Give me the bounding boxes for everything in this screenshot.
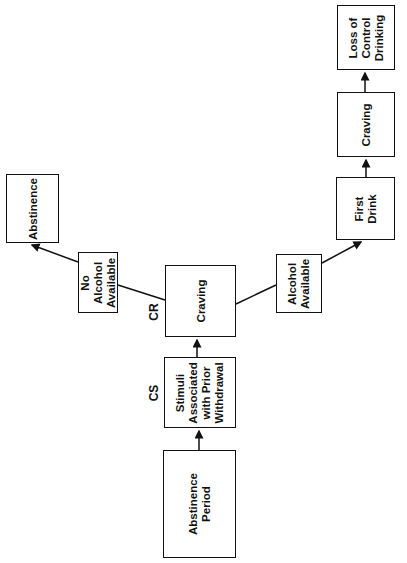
edge-craving-to-alcohol-available bbox=[236, 285, 276, 304]
node-no-alcohol-available: No Alcohol Available bbox=[78, 252, 118, 313]
node-label: Craving bbox=[360, 103, 373, 146]
node-label: Stimuli Associated with Prior Withdrawal bbox=[174, 362, 226, 423]
node-label: Abstinence bbox=[26, 178, 39, 240]
node-stimuli-associated-with-prior-withdrawal: Stimuli Associated with Prior Withdrawal bbox=[164, 357, 236, 428]
node-loss-of-control-drinking: Loss of Control Drinking bbox=[337, 5, 395, 70]
node-label: First Drink bbox=[353, 194, 379, 223]
node-abstinence-period: Abstinence Period bbox=[163, 450, 236, 558]
node-label: Abstinence Period bbox=[187, 473, 213, 535]
edge-craving-to-no-alcohol bbox=[118, 285, 165, 300]
node-craving-cr: Craving bbox=[165, 265, 236, 337]
edge-alcohol-available-to-first-drink bbox=[322, 242, 361, 263]
node-craving-2: Craving bbox=[337, 92, 395, 157]
node-label: Craving bbox=[194, 280, 207, 323]
node-alcohol-available: Alcohol Available bbox=[276, 254, 322, 313]
cr-label: CR bbox=[147, 303, 161, 320]
node-label: Alcohol Available bbox=[286, 258, 312, 308]
cs-label: CS bbox=[147, 385, 161, 402]
node-first-drink: First Drink bbox=[336, 177, 395, 240]
node-label: No Alcohol Available bbox=[79, 257, 118, 307]
edge-no-alcohol-to-abstinence bbox=[32, 245, 78, 262]
node-abstinence: Abstinence bbox=[6, 174, 59, 243]
node-label: Loss of Control Drinking bbox=[347, 14, 386, 61]
